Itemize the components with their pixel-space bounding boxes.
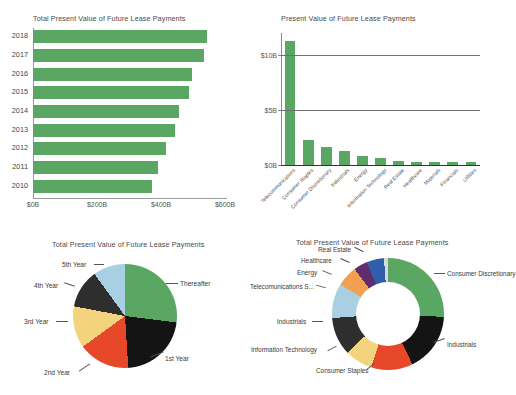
bar-row: 2011 [33, 161, 225, 174]
bar-row: 2016 [33, 68, 225, 81]
donut-leader-energy [322, 270, 332, 275]
bar-segment [285, 41, 296, 165]
bar-category-label: 2013 [12, 125, 28, 134]
x-axis-line [33, 198, 227, 199]
chart-pv-by-sector: Present Value of Future Lease Payments T… [251, 0, 502, 220]
pie-label-fifth-year: 5th Year [62, 261, 86, 268]
pie-label-third-year: 3rd Year [24, 318, 49, 325]
bar-row: 2018 [33, 30, 225, 43]
y-tick-mark [278, 55, 281, 56]
donut-leader-industrials-left [312, 321, 323, 322]
bar-segment [357, 156, 368, 165]
x-tick-label: Industrials [330, 167, 351, 188]
bar-category-label: 2016 [12, 69, 28, 78]
donut-label-industrials-left: Industrials [277, 318, 306, 325]
pie-leader-fourth-year [64, 282, 75, 286]
donut-leader-real-estate [354, 247, 363, 252]
bar-segment [33, 161, 158, 174]
donut-label-healthcare: Healthcare [301, 257, 332, 264]
donut-label-energy: Energy [297, 269, 317, 276]
bar-row: 2013 [33, 124, 225, 137]
donut-label-real-estate: Real Estate [318, 246, 351, 253]
gridline [281, 55, 480, 56]
x-axis-line [281, 165, 480, 166]
bar-segment [33, 30, 207, 43]
bar-segment [33, 142, 166, 155]
donut-leader-telecom [316, 285, 326, 289]
bar-segment [33, 86, 189, 99]
pie-label-fourth-year: 4th Year [34, 282, 58, 289]
bar-segment [303, 140, 314, 165]
vbar-plot-area: TelecommunicationsConsumer StaplesConsum… [281, 33, 480, 165]
pie-leader-third-year [56, 321, 68, 322]
bar-row: 2012 [33, 142, 225, 155]
donut-leader-information-technology [327, 346, 336, 352]
bar-category-label: 2015 [12, 87, 28, 96]
chart-title-pv-by-maturity: Total Present Value of Future Lease Paym… [52, 240, 205, 249]
x-tick-label: $0B [27, 201, 39, 208]
donut-hole [356, 282, 420, 346]
pie-label-first-year: 1st Year [165, 355, 189, 362]
x-tick-label: $200B [87, 201, 107, 208]
bar-segment [33, 180, 152, 193]
donut-label-consumer-discretionary: Consumer Discretionary [447, 270, 516, 277]
x-tick-label: Utilities [461, 167, 477, 183]
bar-category-label: 2018 [12, 31, 28, 40]
donut-label-information-technology: Information Technology [251, 346, 317, 353]
bar-row: 2015 [33, 86, 225, 99]
pie-leader-second-year [79, 363, 90, 371]
chart-title-pv-by-sector: Present Value of Future Lease Payments [281, 14, 416, 23]
donut-leader-consumer-discretionary [434, 273, 445, 274]
donut-label-industrials-right: Industrials [447, 341, 476, 348]
bar-category-label: 2012 [12, 143, 28, 152]
y-tick-mark [278, 165, 281, 166]
bar-segment [33, 49, 204, 62]
bar-row: 2014 [33, 105, 225, 118]
pie-leader-fifth-year [94, 264, 104, 265]
chart-title-total-pv-by-year: Total Present Value of Future Lease Paym… [33, 14, 186, 23]
y-tick-label: $5B [265, 107, 277, 114]
x-tick-label: $400B [151, 201, 171, 208]
bar-category-label: 2014 [12, 106, 28, 115]
pie-label-second-year: 2nd Year [44, 369, 70, 376]
pie-label-thereafter: Thereafter [180, 280, 210, 287]
bar-category-label: 2017 [12, 50, 28, 59]
bar-row: 2010 [33, 180, 225, 193]
x-tick-label: Energy [353, 167, 369, 183]
x-tick-label: Financials [439, 167, 459, 187]
bar-segment [339, 151, 350, 165]
y-tick-mark [278, 110, 281, 111]
donut-leader-healthcare [340, 258, 350, 263]
bar-segment [321, 147, 332, 165]
bar-category-label: 2010 [12, 181, 28, 190]
hbar-plot-area: 201820172016201520142013201220112010 [33, 28, 225, 196]
donut-label-consumer-staples: Consumer Staples [316, 367, 369, 374]
bar-segment [33, 68, 192, 81]
bar-row: 2017 [33, 49, 225, 62]
bar-segment [33, 105, 179, 118]
gridline [281, 110, 480, 111]
pie-leader-thereafter [166, 283, 178, 284]
chart-total-pv-by-year: Total Present Value of Future Lease Paym… [0, 0, 251, 220]
x-tick-label: $600B [215, 201, 235, 208]
bar-segment [33, 124, 175, 137]
y-tick-label: $10B [261, 52, 277, 59]
chart-pv-by-sector-share: Total Present Value of Future Lease Paym… [251, 226, 502, 395]
bar-segment [375, 158, 386, 165]
y-tick-label: $0B [265, 162, 277, 169]
bar-category-label: 2011 [12, 162, 28, 171]
donut-label-telecom: Telecomunications S... [250, 283, 314, 290]
chart-pv-by-maturity: Total Present Value of Future Lease Paym… [0, 226, 251, 395]
